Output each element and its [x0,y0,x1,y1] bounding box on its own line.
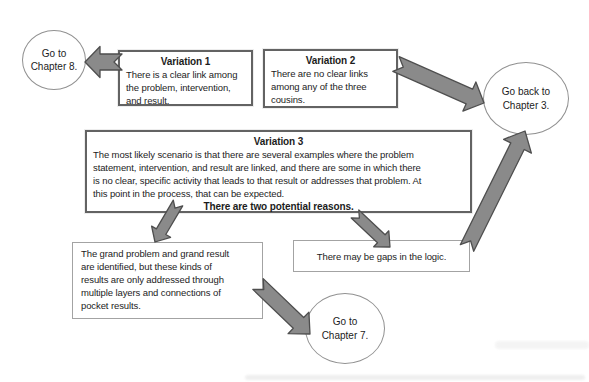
variation2-title: Variation 2 [265,51,396,67]
scan-artifact [245,375,585,380]
variation1-title: Variation 1 [120,52,251,68]
node-chapter7: Go to Chapter 7. [305,293,385,364]
variation3-line: The most likely scenario is that there a… [87,148,470,161]
variation2-line: cousins. [265,93,396,106]
grand-problem-line: pocket results. [73,299,262,312]
scan-artifact [495,341,589,349]
variation3-line: statement, intervention, and result are … [87,161,470,174]
arrow-variation2-to-chapter3 [393,57,484,111]
gaps-line: There may be gaps in the logic. [317,250,446,263]
variation1-line: and result. [120,94,251,107]
node-chapter3-line2: Chapter 3. [503,99,550,113]
arrow-variation1-to-chapter8 [85,47,122,78]
variation3-emphasis: There are two potential reasons. [87,200,470,213]
grand-problem-line: multiple layers and connections of [73,286,262,299]
variation3-line: this point in the process, that can be e… [87,187,470,200]
variation2-line: There are no clear links [265,67,396,80]
node-chapter8: Go to Chapter 8. [22,30,86,90]
flowchart-canvas: Go to Chapter 8. Go back to Chapter 3. G… [0,0,589,382]
node-chapter7-line2: Chapter 7. [322,329,369,343]
node-chapter8-line1: Go to [42,47,66,61]
node-chapter8-line2: Chapter 8. [31,60,78,74]
grand-problem-line: are identified, but these kinds of [73,260,262,273]
grand-problem-line: results are only addressed through [73,273,262,286]
variation3-line: is no clear, specific activity that lead… [87,174,470,187]
node-chapter7-line1: Go to [333,315,357,329]
node-chapter3: Go back to Chapter 3. [483,62,569,135]
node-chapter3-line1: Go back to [502,85,550,99]
node-grand-problem: The grand problem and grand result are i… [72,242,263,319]
variation2-line: among any of the three [265,80,396,93]
variation1-line: There is a clear link among [120,68,251,81]
node-variation2: Variation 2 There are no clear links amo… [263,49,398,108]
node-variation3: Variation 3 The most likely scenario is … [85,130,472,213]
variation3-title: Variation 3 [87,132,470,148]
node-gaps: There may be gaps in the logic. [293,240,470,272]
node-variation1: Variation 1 There is a clear link among … [118,50,253,106]
grand-problem-line: The grand problem and grand result [73,247,262,260]
variation1-line: the problem, intervention, [120,81,251,94]
